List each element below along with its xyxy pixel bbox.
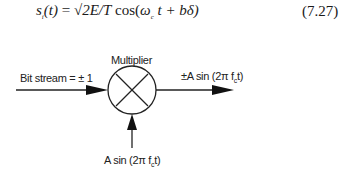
multiplier-label: Multiplier bbox=[111, 54, 152, 66]
input-label: Bit stream = ± 1 bbox=[20, 72, 92, 84]
carrier-arrowhead-icon bbox=[127, 114, 137, 130]
carrier-label: A sin (2π fct) bbox=[104, 154, 160, 168]
output-arrowhead-icon bbox=[212, 85, 234, 95]
input-arrowhead-icon bbox=[86, 85, 108, 95]
output-label: ±A sin (2π fct) bbox=[181, 70, 243, 84]
block-diagram bbox=[0, 0, 352, 175]
